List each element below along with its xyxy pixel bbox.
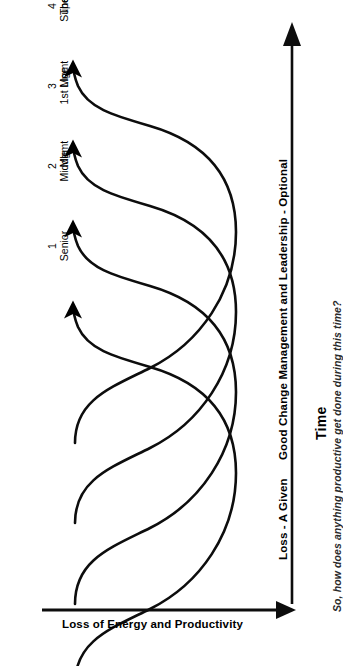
stage-number: 2 [46,163,58,169]
annotation-change-management: Good Change Management and Leadership - … [277,159,289,460]
curve-the-workforce [73,305,236,666]
stage-line-1: Middle [58,151,70,182]
curve-middle-mgmt [73,144,236,523]
vertical-axis-label: Time [314,406,329,440]
curve-senior-mgmt [73,224,236,604]
stage-number: 4 [46,3,58,9]
stage-line-1: Senior [58,231,70,261]
horizontal-axis-arrow [42,601,296,619]
stage-line-1: The [58,0,70,15]
curve-first-line-supervisors [73,64,236,443]
stage-line-1: 1st Line [58,68,70,105]
annotation-loss-a-given: Loss - A Given [277,478,289,560]
stage-label-the-workforce: 4 The Workforce [46,0,70,52]
stage-number: 3 [46,83,58,89]
stage-number: 1 [46,243,58,249]
annotation-question: So, how does anything productive get don… [332,300,343,612]
horizontal-axis-label: Loss of Energy and Productivity [62,618,243,630]
